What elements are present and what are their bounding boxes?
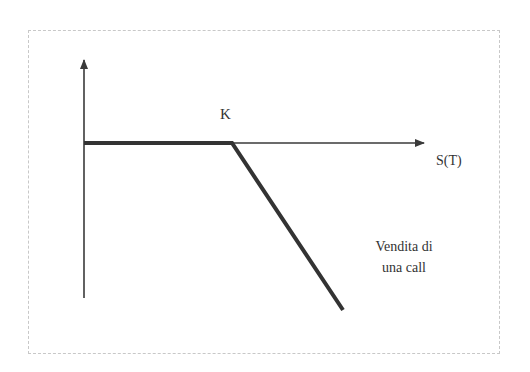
payoff-diagram [0,0,530,372]
caption-line-1: Vendita di [368,236,440,257]
x-axis-label: S(T) [436,153,462,169]
payoff-line [84,143,343,310]
strike-label: K [220,106,231,122]
caption-line-2: una call [368,257,440,278]
caption: Vendita di una call [368,236,440,278]
